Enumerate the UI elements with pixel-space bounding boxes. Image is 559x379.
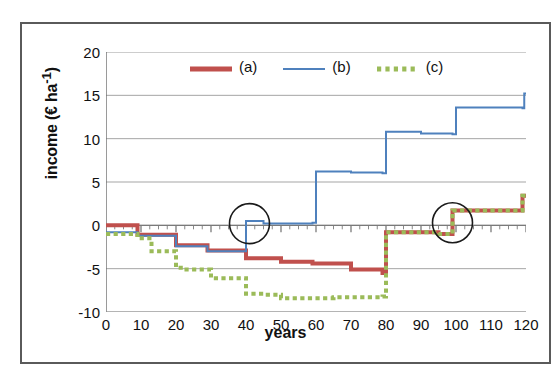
y-axis-title-superscript: -1 xyxy=(39,72,54,83)
legend-swatch-a xyxy=(190,61,232,73)
chart-canvas xyxy=(106,52,526,312)
legend-label: (a) xyxy=(239,58,257,75)
x-axis-title: years xyxy=(22,324,549,342)
legend-item-c[interactable]: (c) xyxy=(377,58,444,75)
plot-area xyxy=(106,52,526,312)
y-tick-label-0: 0 xyxy=(60,217,100,234)
legend-label: (c) xyxy=(426,58,444,75)
y-tick-label-20: 20 xyxy=(60,44,100,61)
y-tick-label-10: 10 xyxy=(60,130,100,147)
y-tick-label--5: -5 xyxy=(60,260,100,277)
chart-legend: (a)(b)(c) xyxy=(190,58,443,75)
data-series xyxy=(106,94,526,299)
legend-swatch-b xyxy=(283,61,325,73)
legend-swatch-c xyxy=(377,61,419,73)
y-axis-tick-labels: -10-505101520 xyxy=(56,52,100,312)
legend-item-a[interactable]: (a) xyxy=(190,58,257,75)
y-tick-label-5: 5 xyxy=(60,174,100,191)
figure-frame: income (€ ha-1) -10-505101520 0102030405… xyxy=(20,22,551,364)
y-tick-label-15: 15 xyxy=(60,87,100,104)
legend-item-b[interactable]: (b) xyxy=(283,58,350,75)
legend-label: (b) xyxy=(332,58,350,75)
